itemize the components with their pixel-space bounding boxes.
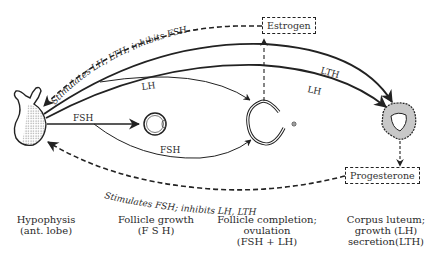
lh-completion-arrow	[100, 77, 250, 100]
fsh-follicle-label: FSH	[73, 113, 93, 123]
follicle-completion-icon	[248, 101, 296, 144]
progesterone-feedback-arrow	[48, 142, 345, 190]
corpus-luteum-icon	[382, 103, 416, 139]
estrogen-box: Estrogen	[262, 17, 316, 34]
progesterone-feedback-label: Stimulates FSH; inhibits LH, LTH	[103, 190, 256, 217]
hypophysis-icon	[14, 87, 46, 145]
follicle-growth-icon	[144, 113, 166, 135]
follicle-growth-caption: Follicle growth (F S H)	[110, 214, 202, 236]
fsh-completion-label: FSH	[160, 145, 180, 155]
estrogen-feedback-label: Stimulates LH, LTH; inhibits FSH	[49, 24, 188, 106]
lh-completion-label: LH	[141, 80, 156, 92]
lth-arrow	[44, 44, 392, 114]
follicle-completion-caption: Follicle completion; ovulation (FSH + LH…	[210, 214, 324, 247]
hypophysis-caption: Hypophysis (ant. lobe)	[8, 214, 84, 236]
hormone-feedback-diagram: LTH LH LH FSH FSH Stimulates LH, LTH; in…	[0, 0, 439, 257]
corpus-luteum-caption: Corpus luteum; growth (LH) secretion(LTH…	[338, 214, 434, 247]
progesterone-box: Progesterone	[345, 167, 420, 184]
lh-corpus-label: LH	[307, 84, 323, 97]
